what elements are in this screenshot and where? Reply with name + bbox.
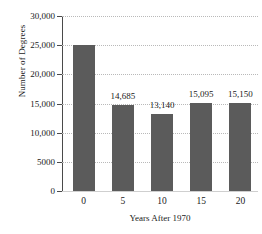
y-axis-tick bbox=[57, 104, 62, 105]
gridline bbox=[62, 16, 258, 17]
x-axis-tick-label: 20 bbox=[225, 196, 255, 206]
x-axis-title: Years After 1970 bbox=[62, 213, 258, 223]
y-axis-tick-label: 10,000 bbox=[5, 129, 55, 138]
bar bbox=[73, 45, 95, 191]
y-axis-tick bbox=[57, 45, 62, 46]
bar bbox=[190, 103, 212, 191]
y-axis-tick-labels: 0500010,00015,00020,00025,00030,000 bbox=[0, 0, 55, 234]
x-axis-tick-label: 5 bbox=[108, 196, 138, 206]
y-axis-tick bbox=[57, 74, 62, 75]
bar-chart: Number of Degrees 0500010,00015,00020,00… bbox=[0, 0, 262, 234]
y-axis-tick-label: 0 bbox=[5, 187, 55, 196]
bar-value-label: 14,685 bbox=[100, 92, 146, 101]
y-axis-tick bbox=[57, 133, 62, 134]
y-axis-tick-label: 5000 bbox=[5, 158, 55, 167]
y-axis-tick-label: 30,000 bbox=[5, 12, 55, 21]
bar bbox=[151, 114, 173, 191]
bar-value-label: 15,150 bbox=[217, 90, 262, 99]
gridline bbox=[62, 191, 258, 192]
x-axis-tick-label: 10 bbox=[147, 196, 177, 206]
y-axis-tick bbox=[57, 16, 62, 17]
y-axis-tick bbox=[57, 191, 62, 192]
y-axis-tick bbox=[57, 162, 62, 163]
x-axis-tick-label: 0 bbox=[69, 196, 99, 206]
bar bbox=[112, 105, 134, 191]
y-axis-tick-label: 25,000 bbox=[5, 41, 55, 50]
y-axis-tick-label: 20,000 bbox=[5, 70, 55, 79]
y-axis-tick-label: 15,000 bbox=[5, 100, 55, 109]
x-axis-tick-label: 15 bbox=[186, 196, 216, 206]
bar bbox=[229, 103, 251, 191]
bar-value-label: 13,140 bbox=[139, 101, 185, 110]
